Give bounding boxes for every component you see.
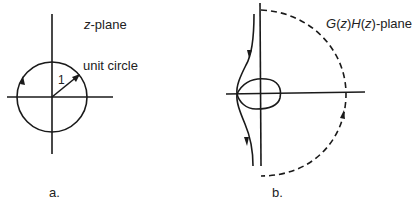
z-var-1: z (340, 16, 347, 31)
z-var-2: z (365, 16, 372, 31)
gh-plane-label: G(z)H(z)-plane (326, 16, 412, 31)
unit-circle-label: unit circle (83, 58, 138, 73)
semicircle-arrow-icon (340, 110, 345, 119)
upper-locus (237, 14, 254, 94)
b-imag-axis (260, 3, 261, 166)
caption-b: b. (272, 185, 283, 200)
h-var: H (351, 16, 360, 31)
caption-a: a. (49, 185, 60, 200)
b-real-axis (226, 92, 365, 94)
lower-locus-arrow-icon (244, 137, 249, 146)
z-plane-label: z-plane (84, 17, 127, 32)
g-var: G (326, 16, 336, 31)
plane-suffix: -plane (91, 17, 127, 32)
radius-value-label: 1 (58, 73, 65, 87)
radius-arrowhead-icon (72, 74, 80, 82)
figure: z-plane unit circle 1 a. G(z)H(z)-plane … (0, 0, 412, 202)
plane-suffix-b: -plane (376, 16, 412, 31)
